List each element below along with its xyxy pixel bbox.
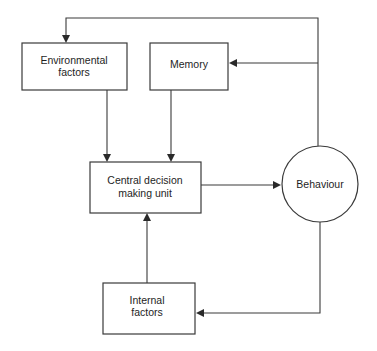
- arrowhead-into-environmental: [62, 35, 70, 43]
- arrowhead-internal-into-central: [143, 213, 151, 221]
- edge-behaviour-to-internal: [203, 222, 320, 313]
- behaviour-model-diagram: Environmental factors Memory Central dec…: [0, 0, 377, 351]
- arrowhead-env-into-central: [103, 154, 111, 162]
- arrowhead-memory-into-central: [167, 154, 175, 162]
- internal-factors-label-1: Internal: [129, 294, 164, 306]
- central-label-2: making unit: [118, 187, 172, 199]
- memory-label: Memory: [170, 58, 209, 70]
- node-memory: Memory: [150, 43, 228, 90]
- node-behaviour: Behaviour: [282, 146, 358, 222]
- internal-factors-label-2: factors: [131, 306, 163, 318]
- central-label-1: Central decision: [107, 174, 182, 186]
- node-central-decision-making-unit: Central decision making unit: [90, 162, 201, 213]
- behaviour-label: Behaviour: [296, 178, 344, 190]
- arrowhead-into-memory: [229, 59, 237, 67]
- node-internal-factors: Internal factors: [103, 283, 195, 334]
- arrowhead-into-behaviour: [273, 181, 281, 189]
- node-environmental-factors: Environmental factors: [22, 43, 127, 90]
- environmental-factors-label-1: Environmental: [40, 54, 107, 66]
- arrowhead-into-internal: [196, 309, 204, 317]
- environmental-factors-label-2: factors: [58, 66, 90, 78]
